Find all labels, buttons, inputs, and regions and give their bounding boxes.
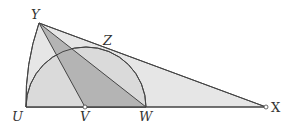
label-x: X — [271, 100, 281, 115]
label-u: U — [12, 109, 24, 124]
geometry-diagram: Y Z U V W X — [0, 0, 295, 125]
label-y: Y — [31, 7, 41, 22]
label-w: W — [139, 109, 154, 124]
label-z: Z — [102, 33, 113, 48]
label-v: V — [80, 109, 91, 124]
point-x-marker — [264, 105, 268, 109]
